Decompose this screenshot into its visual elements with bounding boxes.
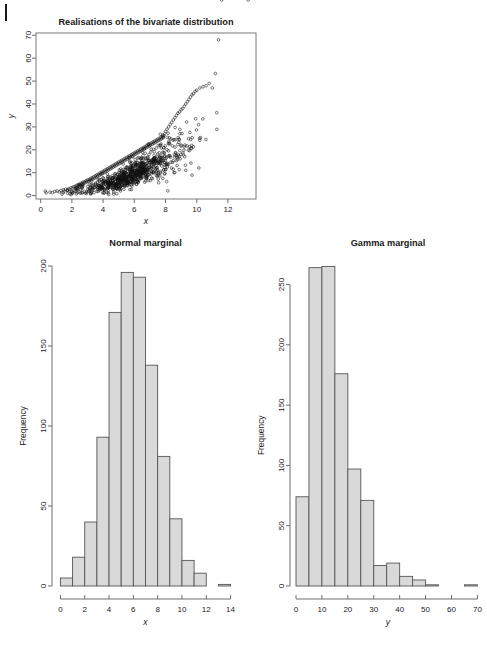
scatter-point — [205, 84, 208, 87]
figure-canvas: Realisations of the bivariate distributi… — [0, 0, 487, 649]
scatter-x-tick-label: 8 — [163, 205, 168, 214]
gamma-hist-bar — [413, 580, 426, 586]
normal-hist-x-tick-label: 12 — [202, 605, 211, 614]
scatter-point — [179, 149, 182, 152]
scatter-point — [194, 117, 197, 120]
scatter-x-axis-title: x — [143, 216, 149, 226]
gamma-hist-y-tick-label: 0 — [277, 583, 286, 588]
scatter-point — [191, 136, 194, 139]
scatter-x-tick-label: 4 — [101, 205, 106, 214]
normal-hist-y-axis-title: Frequency — [18, 405, 28, 445]
normal-hist-y-tick-label: 0 — [39, 583, 48, 588]
gamma-hist-y-axis-title: Frequency — [256, 415, 266, 455]
scatter-point — [184, 169, 187, 172]
scatter-point — [167, 132, 170, 135]
scatter-point — [183, 149, 186, 152]
scatter-point — [208, 82, 211, 85]
scatter-point — [176, 164, 179, 167]
scatter-point — [171, 144, 174, 147]
normal-hist-y-tick-label: 100 — [39, 419, 48, 433]
scatter-title: Realisations of the bivariate distributi… — [58, 17, 233, 27]
scatter-point — [142, 154, 145, 157]
normal-hist-x-tick-label: 8 — [155, 605, 160, 614]
scatter-point — [115, 192, 118, 195]
gamma-hist-y-tick-label: 150 — [277, 398, 286, 412]
normal-hist-x-tick-label: 14 — [226, 605, 235, 614]
scatter-point — [217, 39, 220, 42]
gamma-hist-bar — [322, 266, 335, 586]
scatter-y-tick-label: 50 — [24, 76, 33, 85]
gamma-hist-y-tick-label: 200 — [277, 338, 286, 352]
scatter-point — [198, 167, 201, 170]
scatter-point — [215, 111, 218, 114]
scatter-point — [174, 126, 177, 129]
normal-hist-bar — [170, 519, 182, 586]
scatter-y-tick-label: 70 — [24, 30, 33, 39]
scatter-x-tick-label: 2 — [70, 205, 75, 214]
normal-hist-title: Normal marginal — [109, 238, 182, 248]
scatter-point — [123, 188, 126, 191]
scatter-y-tick-label: 30 — [24, 122, 33, 131]
gamma-hist-x-tick-label: 10 — [317, 605, 326, 614]
scatter-point — [149, 151, 152, 154]
normal-hist-bar — [133, 277, 145, 586]
scatter-point — [197, 123, 200, 126]
scatter-y-tick-label: 40 — [24, 99, 33, 108]
normal-hist-bar — [85, 522, 97, 586]
normal-hist-x-tick-label: 10 — [178, 605, 187, 614]
scatter-point — [161, 177, 164, 180]
normal-hist-x-tick-label: 0 — [58, 605, 63, 614]
scatter-point — [191, 174, 194, 177]
gamma-hist-bar — [426, 585, 439, 586]
gamma-hist-x-axis-title: y — [385, 617, 391, 627]
scatter-point — [159, 175, 162, 178]
scatter-x-tick-label: 6 — [132, 205, 137, 214]
gamma-hist-x-tick-label: 60 — [447, 605, 456, 614]
normal-hist-bar — [182, 560, 194, 586]
scatter-point — [195, 129, 198, 132]
gamma-hist-bar — [400, 576, 413, 586]
scatter-point — [205, 138, 208, 141]
scatter-point — [198, 87, 201, 90]
scatter-point — [190, 162, 193, 165]
scatter-y-tick-label: 60 — [24, 53, 33, 62]
gamma-hist-bar — [361, 500, 374, 586]
gamma-hist-bar — [335, 374, 348, 586]
normal-hist-x-tick-label: 2 — [83, 605, 88, 614]
gamma-hist-title: Gamma marginal — [351, 238, 426, 248]
scatter-point — [178, 141, 181, 144]
normal-hist-bar — [218, 584, 230, 586]
gamma-hist-x-tick-label: 30 — [369, 605, 378, 614]
gamma-hist-y-tick-label: 50 — [277, 521, 286, 530]
normal-hist-bar — [158, 456, 170, 586]
normal-hist-bar — [73, 557, 85, 586]
scatter-point — [247, 0, 250, 1]
gamma-hist-x-tick-label: 70 — [473, 605, 482, 614]
gamma-hist-bar — [348, 469, 361, 586]
scatter-y-axis-title: y — [6, 113, 16, 119]
scatter-point — [144, 152, 147, 155]
gamma-hist-y-tick-label: 250 — [277, 277, 286, 291]
scatter-point — [174, 146, 177, 149]
scatter-y-tick-label: 10 — [24, 168, 33, 177]
gamma-hist-x-tick-label: 20 — [343, 605, 352, 614]
scatter-point — [185, 121, 188, 124]
normal-hist-y-tick-label: 150 — [39, 339, 48, 353]
scatter-point — [214, 72, 217, 75]
normal-hist-bar — [121, 272, 133, 586]
scatter-point — [189, 131, 192, 134]
normal-hist-bar — [194, 573, 206, 586]
scatter-point — [151, 177, 154, 180]
scatter-y-tick-label: 0 — [24, 193, 33, 198]
gamma-hist-x-tick-label: 40 — [395, 605, 404, 614]
page-margin-mark — [5, 4, 7, 21]
scatter-x-tick-label: 12 — [223, 205, 232, 214]
gamma-hist-bar — [296, 497, 309, 586]
gamma-hist-y-tick-label: 100 — [277, 458, 286, 472]
gamma-hist-x-tick-label: 0 — [294, 605, 299, 614]
gamma-hist-bar — [387, 563, 400, 586]
gamma-hist-bar — [309, 268, 322, 586]
scatter-point — [166, 189, 169, 192]
gamma-hist-x-tick-label: 50 — [421, 605, 430, 614]
scatter-point — [134, 158, 137, 161]
